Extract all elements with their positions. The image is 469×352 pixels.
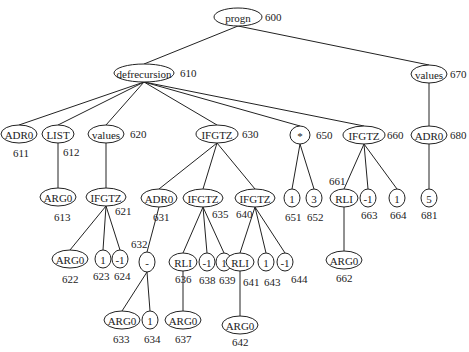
tree-node-624: -1624	[112, 250, 131, 282]
tree-node-631: ADR0631	[141, 189, 177, 223]
node-label: 1	[147, 315, 153, 327]
tree-node-632: -632	[131, 238, 155, 272]
node-label: values	[92, 129, 120, 141]
tree-edge-632-634	[147, 272, 150, 311]
node-id-label: 670	[450, 68, 467, 80]
node-id-label: 640	[236, 208, 253, 220]
tree-node-642: ARG0642	[222, 316, 258, 348]
tree-node-621: IFGTZ621	[86, 188, 132, 217]
tree-node-623: 1623	[93, 250, 111, 282]
tree-node-613: ARG0613	[40, 188, 76, 223]
tree-node-600: progn600	[214, 8, 282, 26]
tree-edge-660-664	[364, 144, 397, 189]
tree-node-680: ADR0680	[411, 126, 467, 144]
node-label: IFGTZ	[348, 130, 379, 142]
tree-edge-610-630	[144, 82, 217, 125]
node-id-label: 632	[131, 238, 148, 250]
node-label: ARG0	[169, 315, 198, 327]
node-id-label: 639	[219, 274, 236, 286]
node-id-label: 620	[130, 128, 147, 140]
node-id-label: 635	[212, 208, 229, 220]
tree-node-635: IFGTZ635	[183, 189, 229, 220]
tree-edges	[19, 26, 429, 316]
tree-edge-640-643	[255, 207, 266, 253]
node-label: 1	[394, 193, 400, 205]
node-id-label: 650	[316, 129, 333, 141]
node-id-label: 660	[387, 129, 404, 141]
tree-edge-640-644	[255, 207, 285, 253]
tree-edge-621-623	[103, 206, 106, 250]
node-label: -1	[363, 193, 372, 205]
node-label: -1	[202, 257, 211, 269]
node-label: ARG0	[56, 254, 85, 266]
node-id-label: 633	[113, 333, 130, 345]
node-label: -1	[115, 254, 124, 266]
tree-node-670: values670	[411, 65, 467, 83]
node-id-label: 612	[63, 146, 80, 158]
tree-edge-650-651	[292, 144, 300, 189]
node-id-label: 652	[307, 211, 324, 223]
tree-edge-630-635	[203, 143, 217, 189]
node-label: ARG0	[44, 192, 73, 204]
node-id-label: 622	[62, 273, 79, 285]
tree-node-636: RLI636	[169, 253, 197, 285]
node-label: IFGTZ	[239, 193, 270, 205]
tree-edge-621-622	[70, 206, 106, 250]
tree-node-650: *650	[290, 126, 333, 144]
tree-node-637: ARG0637	[165, 311, 201, 345]
node-id-label: 636	[175, 273, 192, 285]
node-id-label: 637	[175, 333, 192, 345]
tree-nodes: progn600defrecursion610values670ADR0611L…	[1, 8, 467, 348]
node-label: 1	[100, 254, 106, 266]
node-id-label: 621	[115, 205, 132, 217]
tree-node-610: defrecursion610	[114, 64, 197, 82]
tree-edge-600-610	[144, 26, 238, 64]
tree-edge-600-670	[238, 26, 429, 65]
node-id-label: 610	[180, 67, 197, 79]
tree-edge-610-612	[58, 82, 144, 125]
tree-edge-660-661	[344, 144, 364, 189]
tree-node-611: ADR0611	[1, 125, 37, 159]
tree-node-661: RLI661	[329, 175, 358, 207]
node-label: defrecursion	[117, 68, 172, 80]
node-label: RLI	[335, 193, 353, 205]
node-label: 1	[263, 257, 269, 269]
node-id-label: 680	[450, 129, 467, 141]
node-id-label: 634	[144, 333, 161, 345]
node-id-label: 641	[243, 276, 260, 288]
node-label: ADR0	[5, 129, 34, 141]
node-label: ARG0	[330, 255, 359, 267]
node-id-label: 638	[199, 274, 216, 286]
tree-node-663: -1663	[360, 189, 378, 221]
tree-node-662: ARG0662	[326, 251, 362, 284]
node-id-label: 644	[291, 273, 308, 285]
tree-node-652: 3652	[306, 189, 324, 223]
tree-edge-610-650	[144, 82, 300, 126]
node-label: ADR0	[415, 130, 444, 142]
tree-node-620: values620	[88, 125, 147, 143]
node-id-label: 623	[93, 270, 110, 282]
tree-node-612: LIST612	[42, 125, 80, 158]
tree-edge-630-631	[159, 143, 217, 189]
node-id-label: 600	[265, 11, 282, 23]
tree-node-638: -1638	[199, 253, 216, 286]
node-id-label: 630	[242, 128, 259, 140]
node-label: RLI	[231, 257, 249, 269]
node-id-label: 624	[114, 270, 131, 282]
tree-edge-630-640	[217, 143, 255, 189]
node-id-label: 664	[390, 209, 407, 221]
node-id-label: 681	[421, 209, 438, 221]
node-label: values	[415, 69, 443, 81]
node-label: ARG0	[226, 320, 255, 332]
tree-node-633: ARG0633	[104, 311, 140, 345]
node-label: -	[145, 257, 149, 269]
node-id-label: 663	[361, 209, 378, 221]
tree-node-634: 1634	[142, 311, 161, 345]
node-label: 3	[311, 193, 317, 205]
node-label: -1	[280, 257, 289, 269]
node-id-label: 661	[329, 175, 346, 187]
tree-edge-635-636	[183, 207, 203, 253]
node-id-label: 662	[336, 272, 353, 284]
node-label: 1	[289, 193, 295, 205]
tree-node-640: IFGTZ640	[235, 189, 275, 220]
